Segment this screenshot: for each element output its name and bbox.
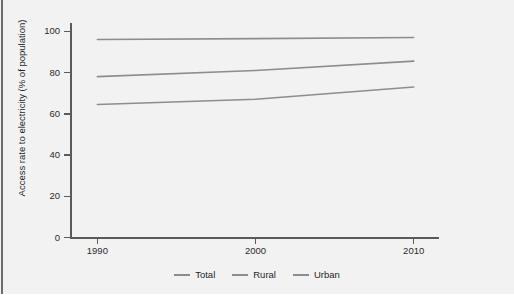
page-bottom-margin (0, 294, 514, 302)
series-line-rural (97, 87, 413, 105)
series-line-total (97, 61, 413, 76)
legend-line-swatch-icon (293, 274, 309, 276)
legend-label: Rural (253, 270, 276, 280)
legend-label: Urban (314, 270, 340, 280)
legend-line-swatch-icon (232, 274, 248, 276)
legend-label: Total (195, 270, 215, 280)
legend-item-total[interactable]: Total (174, 270, 215, 280)
chart-legend: TotalRuralUrban (0, 270, 514, 280)
chart-figure: Access rate to electricity (% of populat… (0, 0, 514, 302)
series-line-urban (97, 37, 413, 39)
legend-item-urban[interactable]: Urban (293, 270, 340, 280)
legend-item-rural[interactable]: Rural (232, 270, 276, 280)
legend-line-swatch-icon (174, 274, 190, 276)
series-lines (0, 0, 514, 302)
